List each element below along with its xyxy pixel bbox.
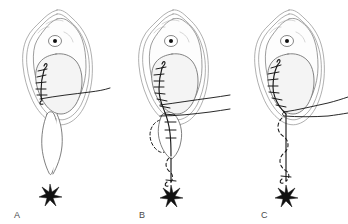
suture-knot-bottom [40,101,43,104]
figure-container: A [0,0,348,224]
panel-c-illustration [232,0,348,224]
central-dot-marker [53,39,57,43]
panel-a-illustration [0,0,116,224]
inner-body-region [268,54,314,114]
dashed-snake-column [278,118,289,181]
panel-c-label: C [261,210,268,220]
panel-b: B [116,0,232,224]
star-marker [39,184,62,206]
inner-body-region [36,54,82,114]
panel-a: A [0,0,116,224]
tail-suture-rungs [166,180,176,181]
seam-suture-rungs [281,176,291,177]
needle-tip [283,112,285,116]
central-dot-marker [285,39,289,43]
panel-b-label: B [139,210,145,220]
panel-a-label: A [14,210,20,220]
panel-b-illustration [116,0,232,224]
inner-body-region [152,54,198,114]
star-marker [275,185,298,207]
tail-knot [165,182,168,186]
central-dot-marker [169,39,173,43]
panel-c: C [232,0,348,224]
seam-knot [280,179,283,183]
star-marker [160,185,183,207]
